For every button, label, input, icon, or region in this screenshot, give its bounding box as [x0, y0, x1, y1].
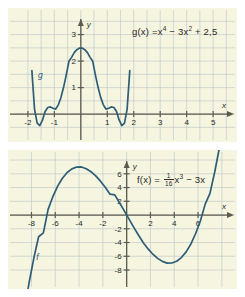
formula-g-operator-1: − [169, 26, 175, 37]
formula-label-g: g(x) =x4 − 3x2 + 2,5 [132, 26, 217, 37]
x-axis-label: x [221, 202, 227, 211]
y-tick-label: -8 [115, 266, 123, 275]
formula-f-denominator: 16 [164, 180, 174, 188]
y-tick-label: 2 [71, 57, 76, 66]
x-tick-label: -8 [28, 219, 36, 228]
y-axis-label: y [132, 162, 138, 171]
formula-f-term-exponent: 3 [180, 173, 184, 180]
formula-label-f: f(x) = 116x3 − 3x [137, 172, 205, 188]
formula-g-operator-2: + [195, 26, 201, 37]
chart-panel-bottom: -8-6-4-2246642-2-4-6-8xyf [8, 150, 237, 289]
x-tick-label: 1 [105, 118, 110, 127]
x-tick-label: 4 [172, 219, 177, 228]
y-tick-label: 1 [71, 83, 76, 92]
formula-f-name: f(x) = [137, 174, 160, 185]
figure-container: -2-112345123xyg g(x) =x4 − 3x2 + 2,5 -8-… [0, 0, 245, 297]
formula-f-operator: − [186, 174, 192, 185]
y-tick-label: 6 [117, 170, 122, 179]
curve-label-f: f [36, 252, 40, 262]
y-tick-label: 3 [71, 30, 76, 39]
x-tick-label: -4 [76, 219, 84, 228]
y-axis-arrowhead [124, 161, 130, 168]
x-tick-label: 2 [148, 219, 153, 228]
y-tick-label: -6 [115, 252, 123, 261]
formula-g-constant: 2,5 [204, 26, 218, 37]
y-tick-label: -4 [115, 238, 123, 247]
x-tick-label: -2 [99, 219, 107, 228]
formula-g-term2-exponent: 2 [188, 25, 192, 32]
y-axis-arrowhead [78, 19, 84, 26]
x-axis-arrowhead [227, 212, 234, 218]
tick-group: -2-112345123 [24, 30, 216, 127]
x-tick-label: -1 [51, 118, 59, 127]
formula-g-name: g(x) = [132, 26, 158, 37]
formula-f-numerator: 1 [164, 172, 174, 180]
y-tick-label: -2 [115, 225, 123, 234]
axes [10, 19, 234, 140]
curve-label-g: g [38, 70, 43, 80]
x-tick-label: 3 [158, 118, 163, 127]
x-tick-label: 2 [132, 118, 137, 127]
x-tick-label: -6 [52, 219, 60, 228]
coordinate-system-f: -8-6-4-2246642-2-4-6-8xyf [8, 150, 237, 289]
x-tick-label: 4 [184, 118, 189, 127]
x-tick-label: 5 [211, 118, 216, 127]
y-tick-label: 4 [117, 183, 122, 192]
formula-f-term2: 3x [195, 174, 205, 185]
formula-g-term2-coefficient: 3x [178, 26, 188, 37]
formula-f-fraction: 116 [164, 172, 174, 188]
x-axis-arrowhead [227, 111, 234, 117]
formula-g-term1-exponent: 4 [163, 25, 167, 32]
x-tick-label: -2 [24, 118, 32, 127]
